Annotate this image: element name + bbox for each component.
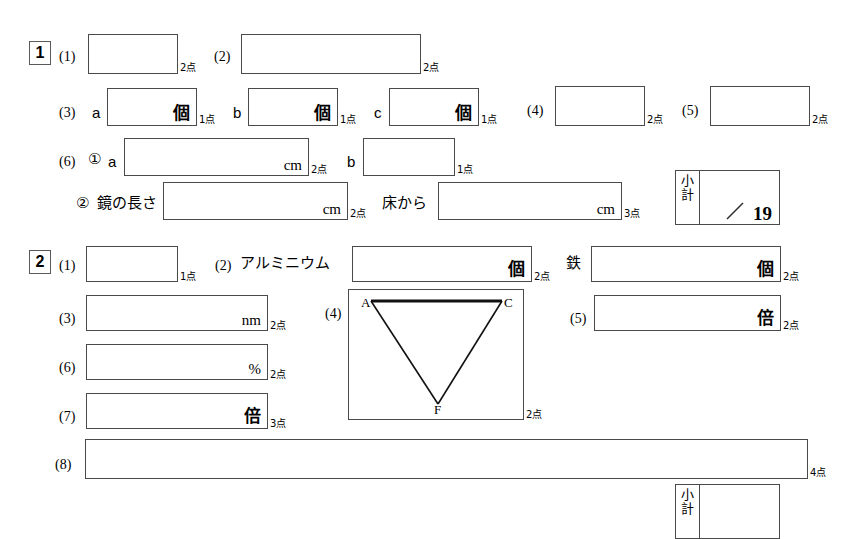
points-1-3-c: 1点 xyxy=(481,115,497,125)
unit-cm-1-6-a: cm xyxy=(284,158,302,173)
subtotal-label-2: 小 計 xyxy=(676,485,700,538)
answer-box-1-6-1-b[interactable] xyxy=(363,138,455,176)
subtotal-max-1: 19 xyxy=(753,204,772,223)
answer-box-1-3-c[interactable]: 個 xyxy=(389,88,479,126)
section-marker-1: 1 xyxy=(29,41,51,65)
label-from-floor: 床から xyxy=(382,196,427,211)
question-label-2-8: (8) xyxy=(55,458,71,472)
question-label-1-6: (6) xyxy=(59,155,75,169)
points-1-2: 2点 xyxy=(423,63,439,73)
answer-box-1-6-2-floor[interactable]: cm xyxy=(438,182,622,220)
question-label-1-4: (4) xyxy=(527,104,543,118)
question-label-2-7: (7) xyxy=(59,410,75,424)
points-1-3-b: 1点 xyxy=(340,115,356,125)
answer-box-1-3-b[interactable]: 個 xyxy=(248,88,338,126)
sublabel-1-3-b: b xyxy=(233,105,241,120)
points-2-6: 2点 xyxy=(270,370,286,380)
answer-box-2-5[interactable]: 倍 xyxy=(594,295,781,331)
subtotal-label-top-2: 小 xyxy=(676,488,699,502)
points-2-1: 1点 xyxy=(180,272,196,282)
question-label-2-5: (5) xyxy=(570,312,586,326)
vertex-label-c: C xyxy=(504,296,513,309)
subtotal-box-section-1: 小 計 19 xyxy=(675,170,780,225)
sublabel-1-6-a: a xyxy=(108,154,116,169)
unit-ko-2-2-aluminium: 個 xyxy=(508,261,525,278)
answer-box-1-6-2-mirror[interactable]: cm xyxy=(163,182,348,220)
points-2-4: 2点 xyxy=(526,410,542,420)
answer-box-1-5[interactable] xyxy=(710,86,810,126)
circled-number-2: ② xyxy=(76,196,89,211)
points-1-1: 2点 xyxy=(180,63,196,73)
unit-cm-1-6-floor: cm xyxy=(597,202,615,217)
points-1-6-mirror: 2点 xyxy=(350,209,366,219)
subtotal-box-section-2: 小 計 xyxy=(675,484,780,539)
unit-ko-1-3-c: 個 xyxy=(455,105,472,122)
points-2-8: 4点 xyxy=(810,468,826,478)
vertex-label-f: F xyxy=(434,403,441,416)
answer-box-2-1[interactable] xyxy=(86,246,178,282)
points-1-6-b: 1点 xyxy=(457,165,473,175)
subtotal-label-bottom-1: 計 xyxy=(676,188,699,202)
answer-box-2-2-iron[interactable]: 個 xyxy=(591,246,781,282)
unit-percent-2-6: % xyxy=(249,362,262,377)
question-label-2-6: (6) xyxy=(59,361,75,375)
subtotal-value-1[interactable]: 19 xyxy=(700,171,779,224)
question-label-1-1: (1) xyxy=(59,50,75,64)
slash-icon xyxy=(725,201,745,221)
sublabel-1-6-b: b xyxy=(347,154,355,169)
section-marker-2: 2 xyxy=(29,250,51,274)
answer-box-2-8[interactable] xyxy=(85,439,808,479)
points-1-5: 2点 xyxy=(812,115,828,125)
question-label-1-3: (3) xyxy=(59,106,75,120)
points-2-5: 2点 xyxy=(783,321,799,331)
points-2-7: 3点 xyxy=(270,419,286,429)
question-label-2-4: (4) xyxy=(325,307,341,321)
subtotal-value-2[interactable] xyxy=(700,485,779,538)
circled-number-1: ① xyxy=(88,152,101,167)
sublabel-1-3-c: c xyxy=(374,105,382,120)
subtotal-label-1: 小 計 xyxy=(676,171,700,224)
label-iron: 鉄 xyxy=(566,256,581,271)
answer-box-1-6-1-a[interactable]: cm xyxy=(124,138,309,176)
points-1-3-a: 1点 xyxy=(199,115,215,125)
unit-nm-2-3: nm xyxy=(242,313,261,328)
question-label-2-2: (2) xyxy=(215,259,231,273)
answer-box-1-3-a[interactable]: 個 xyxy=(107,88,197,126)
unit-ko-2-2-iron: 個 xyxy=(757,261,774,278)
answer-box-2-4-diagram[interactable]: A C F xyxy=(348,289,524,420)
question-label-2-1: (1) xyxy=(59,259,75,273)
points-1-6-floor: 3点 xyxy=(624,209,640,219)
unit-bai-2-7: 倍 xyxy=(244,408,261,425)
answer-box-2-3[interactable]: nm xyxy=(86,295,268,331)
question-label-1-2: (2) xyxy=(214,50,230,64)
answer-box-2-7[interactable]: 倍 xyxy=(86,393,268,429)
answer-box-2-6[interactable]: % xyxy=(86,344,268,380)
sublabel-1-3-a: a xyxy=(92,105,100,120)
question-label-1-5: (5) xyxy=(682,104,698,118)
answer-box-2-2-aluminium[interactable]: 個 xyxy=(352,246,532,282)
points-1-4: 2点 xyxy=(647,115,663,125)
points-2-2-iron: 2点 xyxy=(783,272,799,282)
answer-box-1-4[interactable] xyxy=(555,86,645,126)
vertex-label-a: A xyxy=(361,296,370,309)
answer-box-1-2[interactable] xyxy=(241,34,421,74)
question-label-2-3: (3) xyxy=(59,312,75,326)
subtotal-label-bottom-2: 計 xyxy=(676,502,699,516)
unit-ko-1-3-b: 個 xyxy=(314,105,331,122)
points-2-2-aluminium: 2点 xyxy=(534,272,550,282)
label-aluminium: アルミニウム xyxy=(240,256,330,271)
points-1-6-a: 2点 xyxy=(311,165,327,175)
answer-box-1-1[interactable] xyxy=(88,34,178,74)
label-mirror-length: 鏡の長さ xyxy=(97,196,157,211)
unit-bai-2-5: 倍 xyxy=(757,310,774,327)
subtotal-label-top-1: 小 xyxy=(676,174,699,188)
unit-cm-1-6-mirror: cm xyxy=(323,202,341,217)
unit-ko-1-3-a: 個 xyxy=(173,105,190,122)
points-2-3: 2点 xyxy=(270,321,286,331)
